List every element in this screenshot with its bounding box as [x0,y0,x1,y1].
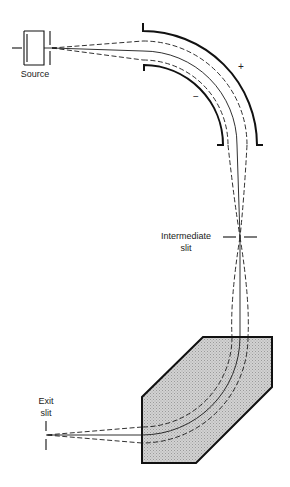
intermediate-slit-label-2: slit [181,243,192,253]
ion-source [12,31,56,65]
exit-slit-label-1: Exit [38,396,54,406]
negative-plate-sign: − [193,91,199,102]
spectrometer-diagram: Source + − Intermediate slit [0,0,290,487]
exit-slit-label-2: slit [41,408,52,418]
magnetic-sector [142,337,272,463]
intermediate-slit-label-1: Intermediate [161,231,211,241]
positive-plate-sign: + [238,61,244,72]
ion-beam [52,41,248,337]
source-label: Source [21,69,50,79]
